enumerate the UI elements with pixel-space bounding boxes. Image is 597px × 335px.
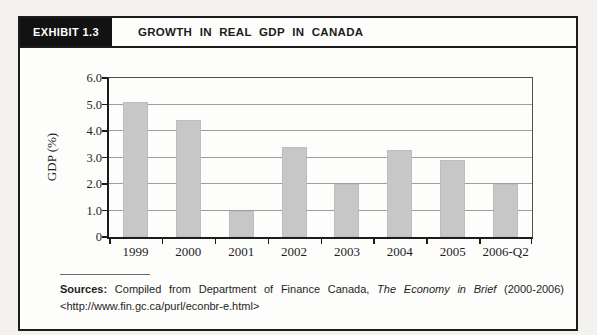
category-label-1999: 1999 <box>109 244 162 260</box>
bar-2006-Q2 <box>493 184 518 237</box>
y-axis-title: GDP (%) <box>42 77 62 236</box>
sources-paragraph: Sources: Compiled from Department of Fin… <box>60 282 564 297</box>
gridline-5 <box>109 104 532 105</box>
sources-years: (2000-2006) <box>504 283 564 295</box>
bar-2002 <box>282 147 307 237</box>
exhibit-header: EXHIBIT 1.3 GROWTH IN REAL GDP IN CANADA <box>20 18 576 48</box>
y-axis-tick <box>102 104 107 106</box>
y-axis-tick <box>102 210 107 212</box>
bar-2003 <box>334 184 359 237</box>
footnote-rule <box>60 274 150 275</box>
category-label-2004: 2004 <box>373 244 426 260</box>
bar-2005 <box>440 160 465 237</box>
y-axis-tick <box>102 77 107 79</box>
y-axis-tick <box>102 236 107 238</box>
y-axis-title-text: GDP (%) <box>44 132 60 180</box>
sources-url: <http://www.fin.gc.ca/purl/econbr-e.html… <box>60 299 564 314</box>
gridline-1 <box>109 210 532 211</box>
category-label-2002: 2002 <box>268 244 321 260</box>
y-tick-label-3.0: 3.0 <box>60 151 102 165</box>
y-tick-label-6.0: 6.0 <box>60 71 102 85</box>
y-tick-label-2.0: 2.0 <box>60 177 102 191</box>
sources-label: Sources: <box>60 283 107 295</box>
y-tick-labels: 6.05.04.03.02.01.00 <box>60 77 102 236</box>
y-tick-label-1.0: 1.0 <box>60 204 102 218</box>
category-label-2003: 2003 <box>321 244 374 260</box>
category-label-2000: 2000 <box>162 244 215 260</box>
category-label-2005: 2005 <box>426 244 479 260</box>
category-label-2006-Q2: 2006-Q2 <box>479 244 532 260</box>
category-labels: 19992000200120022003200420052006-Q2 <box>109 244 532 262</box>
bar-2001 <box>229 211 254 238</box>
gridline-3 <box>109 157 532 158</box>
y-axis-tick <box>102 130 107 132</box>
exhibit-box: EXHIBIT 1.3 GROWTH IN REAL GDP IN CANADA… <box>18 16 578 331</box>
gridline-2 <box>109 183 532 184</box>
category-label-2001: 2001 <box>215 244 268 260</box>
bar-1999 <box>123 102 148 237</box>
exhibit-label: EXHIBIT 1.3 <box>20 18 112 46</box>
bar-2000 <box>176 120 201 237</box>
bar-2004 <box>387 150 412 237</box>
y-tick-label-0: 0 <box>60 230 102 244</box>
exhibit-title: GROWTH IN REAL GDP IN CANADA <box>112 18 576 46</box>
y-axis-tick <box>102 157 107 159</box>
y-axis-tick <box>102 183 107 185</box>
y-tick-label-4.0: 4.0 <box>60 124 102 138</box>
gdp-bar-chart: GDP (%) 6.05.04.03.02.01.00 199920002001… <box>20 46 576 276</box>
plot-area <box>107 77 533 239</box>
gridline-4 <box>109 130 532 131</box>
sources-footer: Sources: Compiled from Department of Fin… <box>60 274 564 314</box>
sources-text: Compiled from Department of Finance Cana… <box>115 283 370 295</box>
y-tick-label-5.0: 5.0 <box>60 98 102 112</box>
sources-work-title: The Economy in Brief <box>377 283 496 295</box>
